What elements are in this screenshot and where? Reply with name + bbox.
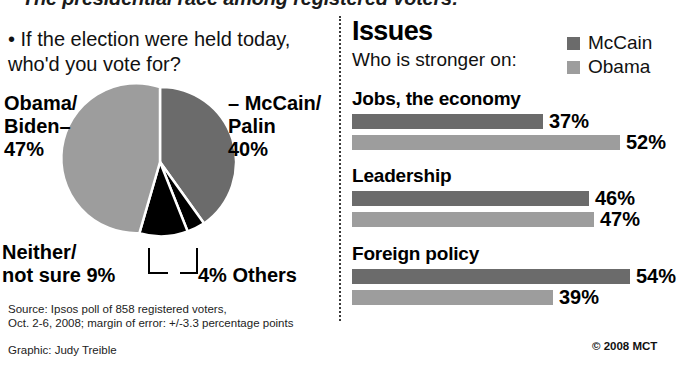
bar-value-obama: 52% [626,131,666,154]
bar-value-obama: 47% [600,208,640,231]
bar-value-mccain: 46% [595,187,635,210]
poll-question: • If the election were held today, who'd… [8,27,328,77]
legend-label-obama: Obama [588,56,650,78]
bar-obama [352,212,594,227]
bar-value-mccain: 54% [636,265,676,288]
graphic-credit: Graphic: Judy Treible [8,344,117,358]
bar-obama [352,135,620,150]
legend-item-obama: Obama [567,55,652,79]
bar-row-mccain: 54% [352,268,689,285]
bar-obama [352,290,553,305]
bar-row-mccain: 37% [352,113,689,130]
infographic-root: The presidential race among registered v… [0,0,689,370]
bar-mccain [352,191,589,206]
pie-label-neither: Neither/ not sure 9% [2,241,115,287]
legend-swatch-mccain [567,37,580,50]
bar-row-obama: 52% [352,134,689,151]
bar-mccain [352,114,543,129]
issue-group-jobs: Jobs, the economy 37% 52% [352,88,689,155]
bar-value-mccain: 37% [549,110,589,133]
page-headline: The presidential race among registered v… [22,0,459,10]
bar-row-mccain: 46% [352,190,689,207]
legend-item-mccain: McCain [567,31,652,55]
issue-group-leadership: Leadership 46% 47% [352,165,689,232]
bar-row-obama: 47% [352,211,689,228]
pie-label-mccain: – McCain/ Palin 40% [228,92,321,161]
bar-row-obama: 39% [352,289,689,306]
source-note: Source: Ipsos poll of 858 registered vot… [8,303,293,330]
issues-subtitle: Who is stronger on: [352,49,517,71]
issue-group-title: Leadership [352,165,689,187]
column-divider [339,16,341,321]
issue-group-title: Foreign policy [352,243,689,265]
pie-label-obama: Obama/ Biden– 47% [4,92,77,161]
issues-title: Issues [352,16,432,47]
copyright-notice: © 2008 MCT [592,340,657,352]
legend-label-mccain: McCain [588,32,652,54]
chart-legend: McCain Obama [567,31,652,79]
pie-leader-line-others [180,248,198,274]
bar-mccain [352,269,630,284]
pie-leader-line-neither [148,248,168,274]
bar-value-obama: 39% [559,286,599,309]
legend-swatch-obama [567,61,580,74]
issue-group-foreign-policy: Foreign policy 54% 39% [352,243,689,310]
pie-label-others: 4% Others [198,264,297,287]
issue-group-title: Jobs, the economy [352,88,689,110]
